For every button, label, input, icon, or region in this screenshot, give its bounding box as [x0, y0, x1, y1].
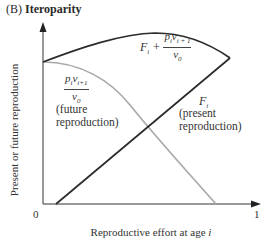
x-axis-label: Reproductive effort at age i	[91, 226, 212, 238]
total-curve-label: Fi + pivi + 1 v0	[140, 30, 191, 65]
total-fraction: pivi + 1 v0	[163, 30, 191, 65]
present-description: (present reproduction)	[179, 107, 242, 133]
x-axis-arrow-icon	[251, 201, 261, 208]
x-axis-label-var: i	[208, 226, 211, 238]
x-axis-label-text: Reproductive effort at age	[91, 226, 209, 238]
y-axis-arrow-icon	[40, 22, 47, 32]
total-reproduction-curve	[43, 33, 230, 62]
total-F: Fi	[140, 40, 149, 54]
x-tick-0: 0	[33, 208, 39, 220]
y-axis-label: Present or future reproduction	[8, 64, 20, 196]
x-tick-1: 1	[254, 208, 260, 220]
future-description: (future reproduction)	[56, 103, 119, 129]
total-plus: +	[149, 40, 163, 54]
present-F: Fi	[199, 94, 208, 108]
